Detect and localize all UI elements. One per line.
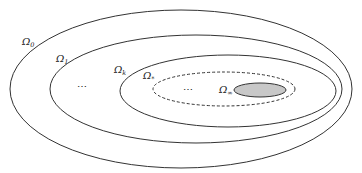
- ellipsis-between-omega-1-and-omega-k: ⋯: [77, 81, 88, 92]
- label-omega-1: Ω1: [55, 53, 68, 66]
- set-omega-0: [10, 10, 352, 168]
- set-omega-1: [50, 35, 342, 143]
- set-omega-inf: [234, 83, 286, 97]
- ellipsis-between-omega-star-and-omega-inf: ⋯: [183, 84, 194, 95]
- nested-sets-diagram: Ω0 Ω1 Ωk Ω* Ω∞ ⋯ ⋯: [0, 0, 362, 173]
- label-omega-k: Ωk: [113, 64, 126, 77]
- label-omega-0: Ω0: [21, 36, 34, 49]
- label-omega-inf: Ω∞: [218, 84, 233, 97]
- label-omega-star: Ω*: [142, 70, 155, 83]
